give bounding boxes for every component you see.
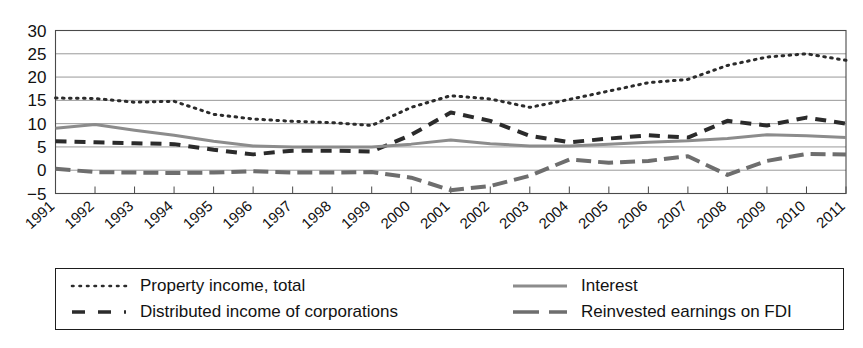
x-tick-label: 2008 [693, 197, 729, 232]
x-axis-tick-labels: 1991199219931994199519961997199819992000… [21, 197, 848, 232]
x-tick-label: 1996 [219, 197, 255, 232]
legend-item-property-income-total: Property income, total [70, 273, 305, 299]
legend-label: Interest [581, 276, 638, 296]
x-tick-label: 2004 [535, 197, 571, 232]
y-tick-label: 25 [28, 45, 47, 64]
legend-label: Property income, total [140, 276, 305, 296]
x-tick-label: 1994 [140, 197, 176, 232]
x-tick-label: 1999 [338, 197, 374, 232]
legend-swatch-solid-icon [511, 279, 569, 293]
x-tick-label: 2001 [417, 197, 453, 232]
x-tick-label: 2005 [575, 197, 611, 232]
legend-swatch-longdash-icon [511, 305, 569, 319]
y-tick-label: 20 [28, 68, 47, 87]
x-tick-label: 2002 [456, 197, 492, 232]
x-tick-label: 2006 [614, 197, 650, 232]
x-tick-label: 1997 [258, 197, 294, 232]
legend-swatch-dotted-icon [70, 279, 128, 293]
legend-item-reinvested-earnings-on-fdi: Reinvested earnings on FDI [511, 299, 792, 325]
x-tick-label: 2003 [496, 197, 532, 232]
legend-label: Reinvested earnings on FDI [581, 302, 792, 322]
y-tick-label: 0 [37, 161, 46, 180]
legend-column-right: Interest Reinvested earnings on FDI [511, 269, 841, 329]
y-tick-label: 5 [37, 138, 46, 157]
x-tick-label: 2007 [654, 197, 690, 232]
x-tick-label: 2009 [733, 197, 769, 232]
y-tick-label: 10 [28, 115, 47, 134]
legend-swatch-dashed-icon [70, 305, 128, 319]
y-tick-label: 15 [28, 91, 47, 110]
legend-column-left: Property income, total Distributed incom… [70, 269, 500, 329]
legend-item-interest: Interest [511, 273, 638, 299]
x-tick-label: 2000 [377, 197, 413, 232]
y-axis-tick-labels: −5051015202530 [27, 22, 46, 204]
x-tick-label: 2011 [813, 197, 848, 231]
x-tick-label: 1992 [61, 197, 97, 232]
x-tick-label: 1995 [179, 197, 215, 232]
x-tick-label: 2010 [772, 197, 808, 232]
series-line [56, 154, 847, 190]
series-line [56, 112, 847, 154]
legend-label: Distributed income of corporations [140, 302, 398, 322]
chart-figure: −5051015202530 1991199219931994199519961… [0, 0, 863, 348]
x-tick-label: 1998 [298, 197, 334, 232]
chart-legend: Property income, total Distributed incom… [55, 268, 844, 330]
y-tick-label: 30 [28, 22, 47, 41]
legend-item-distributed-income-of-corporations: Distributed income of corporations [70, 299, 398, 325]
x-tick-label: 1993 [100, 197, 136, 232]
chart-plot-container: −5051015202530 1991199219931994199519961… [0, 0, 863, 262]
chart-canvas: −5051015202530 1991199219931994199519961… [0, 0, 863, 262]
